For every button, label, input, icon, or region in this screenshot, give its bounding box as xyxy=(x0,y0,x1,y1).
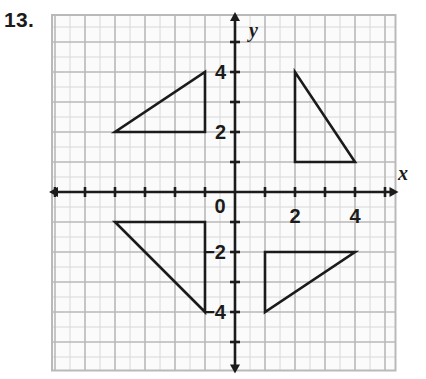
origin-label: 0 xyxy=(214,195,225,217)
x-tick-label-4: 4 xyxy=(349,205,361,227)
y-tick-label--4: −4 xyxy=(203,301,227,323)
y-tick-label--2: −2 xyxy=(203,241,226,263)
x-tick-label-2: 2 xyxy=(289,205,300,227)
y-tick-label-2: 2 xyxy=(215,121,226,143)
coordinate-grid-svg: yx02442−2−4 xyxy=(0,0,426,379)
x-axis-label: x xyxy=(397,162,408,184)
coordinate-plane-figure: 13. yx02442−2−4 xyxy=(0,0,426,379)
y-axis-label: y xyxy=(247,19,258,42)
y-tick-label-4: 4 xyxy=(215,61,227,83)
